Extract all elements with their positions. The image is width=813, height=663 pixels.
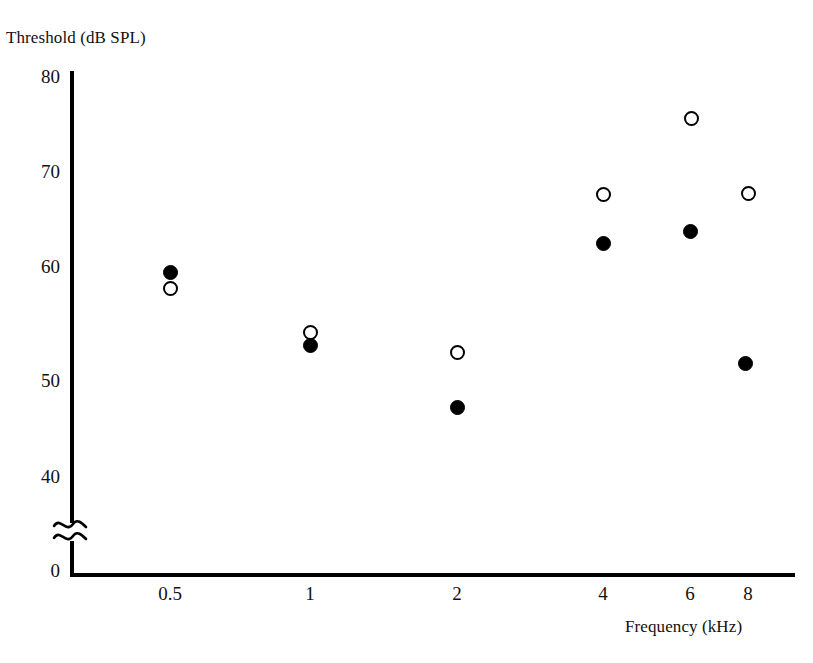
y-tick-label-60: 60 [14,256,60,278]
y-tick-label-80: 80 [14,66,60,88]
y-tick-label-0: 0 [14,560,60,582]
data-point-open-6khz [684,111,699,126]
data-point-filled-8khz [738,356,753,371]
y-axis-title: Threshold (dB SPL) [6,28,146,48]
data-point-open-4khz [596,187,611,202]
data-point-filled-0.5khz [163,265,178,280]
data-point-filled-6khz [683,224,698,239]
data-point-open-1khz [303,325,318,340]
data-point-open-0.5khz [163,281,178,296]
data-point-open-8khz [741,186,756,201]
y-axis-break-icon [52,512,96,552]
x-tick-label-1: 1 [280,583,340,605]
data-point-open-2khz [450,345,465,360]
x-tick-label-8: 8 [718,583,778,605]
x-tick-label-4: 4 [573,583,633,605]
y-tick-label-50: 50 [14,370,60,392]
data-point-filled-1khz [303,338,318,353]
x-axis-title: Frequency (kHz) [625,617,742,637]
y-tick-label-40: 40 [14,466,60,488]
scatter-chart-figure: Threshold (dB SPL) Frequency (kHz) 80 70… [0,0,813,663]
x-axis-line [70,573,795,577]
y-axis-line-upper [70,71,74,523]
data-point-filled-4khz [596,236,611,251]
data-point-filled-2khz [450,400,465,415]
x-tick-label-6: 6 [660,583,720,605]
x-tick-label-2: 2 [427,583,487,605]
x-tick-label-0-5: 0.5 [140,583,200,605]
y-tick-label-70: 70 [14,161,60,183]
